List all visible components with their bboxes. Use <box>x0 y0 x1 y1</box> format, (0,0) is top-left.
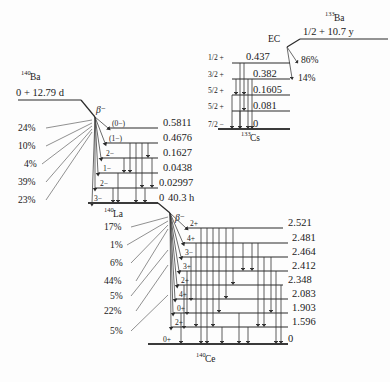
ce140-energy-label-2: 2.464 <box>292 246 316 257</box>
ce140-spin-label-2: 3− <box>185 248 193 257</box>
cs133-spin-label-2: 5/2 + <box>208 86 224 95</box>
ba140-parent-slope <box>81 100 95 117</box>
ce140-spin-label-1: 4+ <box>187 234 195 243</box>
la140-spin-label-4: 2− <box>100 179 108 188</box>
cs133-symbol-label: Cs <box>250 133 260 143</box>
ba140-branch-pct-1: 10% <box>18 140 36 151</box>
ce140-spin-label-7: 2+ <box>175 318 183 327</box>
ce140-energy-label-3: 2.412 <box>292 260 316 271</box>
ce140-energy-label-5: 2.083 <box>292 288 316 299</box>
ce140-energy-label-6: 1.903 <box>292 302 316 313</box>
ba140-branch-pct-2: 4% <box>24 158 37 169</box>
cs133-energy-label-1: 0.382 <box>253 68 277 79</box>
ba140-branch-pct-3: 39% <box>18 176 36 187</box>
ce140-spin-label-4: 2+ <box>181 276 189 285</box>
cs133-spin-label-0: 1/2 + <box>208 53 224 62</box>
ba140-symbol-label: Ba <box>30 72 41 82</box>
la140-branch-pct-0: 17% <box>104 221 122 232</box>
la140-energy-label-1: 0.4676 <box>163 132 192 143</box>
cs133-spin-label-3: 5/2 + <box>208 102 224 111</box>
la140-spin-label-2: 2− <box>106 149 114 158</box>
ba133-branch-pct-0: 86% <box>301 54 319 65</box>
decay-scheme-svg: 133 Ba 1/2 + 10.7 y EC 86% 14% 1/2 + 3/2… <box>0 0 390 382</box>
cs133-energy-label-4: 0 <box>253 118 258 129</box>
la140-pct-leader-1 <box>127 221 168 245</box>
cs133-group: 1/2 + 3/2 + 5/2 + 5/2 + 7/2 − 0.437 0.38… <box>208 51 290 143</box>
cs133-spin-label-1: 3/2 + <box>208 70 224 79</box>
la140-decay-slope <box>158 203 170 213</box>
ce140-energy-label-0: 2.521 <box>288 217 312 228</box>
la140-energy-label-2: 0.1627 <box>163 147 192 158</box>
ce140-energy-label-7: 1.596 <box>292 316 316 327</box>
la140-spin-label-5: 3− <box>94 194 102 203</box>
ce140-spin-label-0: 2+ <box>190 219 198 228</box>
la140-spin-label-1: (1−) <box>109 134 123 143</box>
la140-energy-label-4: 0.02997 <box>159 177 193 188</box>
ce140-energy-label-4: 2.348 <box>288 274 312 285</box>
ba133-head-label: 1/2 + 10.7 y <box>303 26 355 37</box>
cs133-energy-label-0: 0.437 <box>246 51 270 62</box>
la140-pct-leader-6 <box>131 295 168 331</box>
la140-energy-label-0: 0.5811 <box>163 117 192 128</box>
ba133-group: 133 Ba 1/2 + 10.7 y EC 86% 14% <box>268 10 388 83</box>
ce140-spin-label-3: 3+ <box>183 262 191 271</box>
la140-branch-pct-4: 5% <box>110 290 123 301</box>
cs133-energy-label-3: 0.081 <box>253 100 277 111</box>
cs133-spin-label-4: 7/2 − <box>208 120 224 129</box>
ba140-beta-feed-5 <box>92 117 95 203</box>
ce140-spin-label-8: 0+ <box>163 335 171 344</box>
ba140-group: 140 Ba 0 + 12.79 d β⁻ 24% 10% 4% 39% 23% <box>16 69 108 205</box>
la140-ground-halflife-label: 40.3 h <box>168 192 195 203</box>
ba140-beta-label: β⁻ <box>95 104 106 115</box>
ce140-energy-label-1: 2.481 <box>292 232 316 243</box>
ce140-energy-label-8: 0 <box>288 333 293 344</box>
ba133-symbol-label: Ba <box>334 13 345 23</box>
ba133-parent-slope <box>287 39 300 47</box>
la140-energy-label-3: 0.0438 <box>163 162 192 173</box>
ec-label: EC <box>268 33 280 44</box>
la140-spin-label-3: 1− <box>103 164 111 173</box>
la140-spin-label-0: (0−) <box>112 119 126 128</box>
decay-scheme-figure: 133 Ba 1/2 + 10.7 y EC 86% 14% 1/2 + 3/2… <box>0 0 390 382</box>
ce140-symbol-label: Ce <box>205 354 215 364</box>
ba140-head-label: 0 + 12.79 d <box>16 87 65 98</box>
la140-branch-pct-5: 22% <box>104 305 122 316</box>
la140-branch-pct-6: 5% <box>110 325 123 336</box>
la140-pct-leader-0 <box>131 217 168 227</box>
la140-energy-label-5: 0 <box>159 192 164 203</box>
la140-branch-pct-1: 1% <box>110 239 123 250</box>
ce140-spin-label-5: 4+ <box>179 290 187 299</box>
cs133-energy-label-2: 0.1605 <box>253 84 282 95</box>
la140-symbol-label: La <box>113 209 124 219</box>
la140-pct-leader-5 <box>136 265 168 311</box>
ba140-branch-pct-4: 23% <box>18 194 36 205</box>
ba133-branch-pct-1: 14% <box>298 72 316 83</box>
la140-branch-pct-2: 6% <box>110 257 123 268</box>
ba140-branch-pct-0: 24% <box>18 122 36 133</box>
ce140-group: 2+ 4+ 3− 3+ 2+ 4+ 0+ 2+ 0+ 2.521 2.481 2… <box>148 217 316 364</box>
la140-branch-pct-3: 44% <box>104 275 122 286</box>
